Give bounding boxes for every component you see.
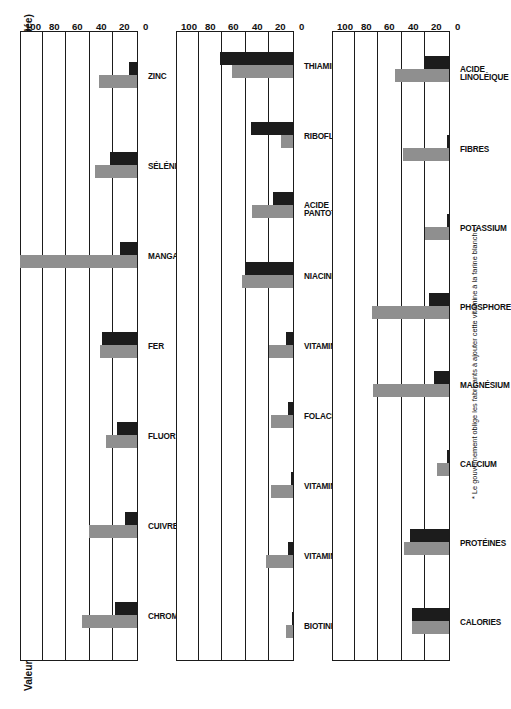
nutrition-comparison-figure: Valeurs comparées du blé et de la farine… xyxy=(0,0,494,709)
chart-legend: farine blancheblé xyxy=(0,0,494,709)
figure-rotator: Valeurs comparées du blé et de la farine… xyxy=(0,0,494,709)
